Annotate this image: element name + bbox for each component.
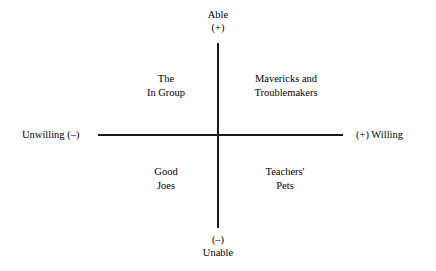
quadrant-lower-right-line1: Teachers' bbox=[233, 165, 337, 179]
quadrant-upper-left-line1: The bbox=[126, 72, 206, 86]
axis-label-bottom: (–) Unable bbox=[0, 233, 436, 259]
quadrant-label-lower-left: Good Joes bbox=[126, 165, 206, 193]
quadrant-lower-left-line1: Good bbox=[126, 165, 206, 179]
quadrant-upper-left-line2: In Group bbox=[126, 86, 206, 100]
quadrant-label-upper-left: The In Group bbox=[126, 72, 206, 100]
quadrant-lower-right-line2: Pets bbox=[233, 179, 337, 193]
quadrant-upper-right-line1: Mavericks and bbox=[230, 72, 342, 86]
axis-label-left-title: Unwilling (–) bbox=[22, 128, 79, 141]
axis-label-top-title: Able bbox=[0, 8, 436, 21]
vertical-axis-line bbox=[217, 43, 219, 228]
axis-label-bottom-sign: (–) bbox=[0, 233, 436, 246]
horizontal-axis-line bbox=[98, 134, 343, 136]
axis-label-top: Able (+) bbox=[0, 8, 436, 34]
axis-label-top-sign: (+) bbox=[0, 21, 436, 34]
quadrant-diagram: Able (+) (–) Unable Unwilling (–) (+) Wi… bbox=[0, 0, 436, 271]
quadrant-label-upper-right: Mavericks and Troublemakers bbox=[230, 72, 342, 100]
axis-label-bottom-title: Unable bbox=[0, 246, 436, 259]
axis-label-left: Unwilling (–) bbox=[22, 128, 79, 141]
axis-label-right-title: (+) Willing bbox=[356, 128, 403, 141]
axis-label-right: (+) Willing bbox=[356, 128, 403, 141]
quadrant-upper-right-line2: Troublemakers bbox=[230, 86, 342, 100]
quadrant-label-lower-right: Teachers' Pets bbox=[233, 165, 337, 193]
quadrant-lower-left-line2: Joes bbox=[126, 179, 206, 193]
